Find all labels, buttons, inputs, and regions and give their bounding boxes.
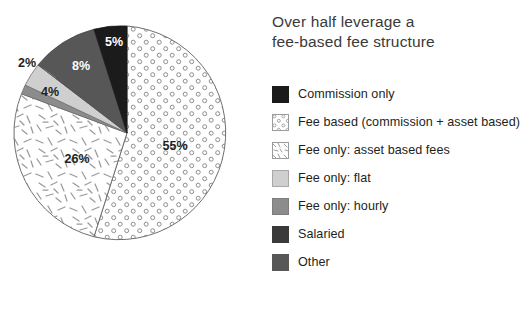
pie-chart-svg: 55% 26% 2% 4% 8% 5%: [0, 0, 265, 321]
chart-side-panel: Over half leverage a fee-based fee struc…: [272, 0, 530, 321]
legend-label-other: Other: [298, 255, 330, 269]
pie-label-4: 4%: [41, 85, 59, 99]
chart-title-line-1: Over half leverage a: [272, 13, 415, 30]
legend-item-fee-based[interactable]: Fee based (commission + asset based): [272, 108, 530, 136]
pie-label-55: 55%: [162, 139, 187, 153]
chart-title: Over half leverage a fee-based fee struc…: [272, 12, 528, 52]
legend-label-asset-based-fees: Fee only: asset based fees: [298, 143, 450, 157]
legend-label-fee-based: Fee based (commission + asset based): [298, 115, 520, 129]
legend-item-salaried[interactable]: Salaried: [272, 220, 530, 248]
pie-chart: 55% 26% 2% 4% 8% 5%: [0, 0, 265, 321]
legend-item-commission-only[interactable]: Commission only: [272, 80, 530, 108]
chart-legend: Commission only Fee based (commission + …: [272, 80, 530, 276]
legend-swatch-salaried: [272, 226, 289, 243]
legend-label-fee-only-flat: Fee only: flat: [298, 171, 371, 185]
chart-title-line-2: fee-based fee structure: [272, 32, 528, 52]
legend-label-commission-only: Commission only: [298, 87, 395, 101]
chart-root: 55% 26% 2% 4% 8% 5% Over half leverage a…: [0, 0, 530, 321]
legend-swatch-fee-only-flat: [272, 170, 289, 187]
legend-label-fee-only-hourly: Fee only: hourly: [298, 199, 388, 213]
pie-label-8: 8%: [72, 59, 90, 73]
legend-item-fee-only-hourly[interactable]: Fee only: hourly: [272, 192, 530, 220]
legend-swatch-fee-based: [272, 114, 289, 131]
legend-swatch-asset-based-fees: [272, 142, 289, 159]
pie-label-2: 2%: [18, 56, 36, 70]
legend-label-salaried: Salaried: [298, 227, 345, 241]
legend-item-fee-only-flat[interactable]: Fee only: flat: [272, 164, 530, 192]
legend-item-asset-based-fees[interactable]: Fee only: asset based fees: [272, 136, 530, 164]
pie-label-5: 5%: [105, 35, 123, 49]
legend-swatch-fee-only-hourly: [272, 198, 289, 215]
legend-item-other[interactable]: Other: [272, 248, 530, 276]
pie-label-26: 26%: [64, 152, 89, 166]
legend-swatch-commission-only: [272, 86, 289, 103]
legend-swatch-other: [272, 254, 289, 271]
